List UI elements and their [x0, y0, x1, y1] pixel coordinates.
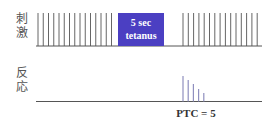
- response-spikes: [183, 76, 204, 102]
- tetanus-label-2: tetanus: [125, 30, 156, 41]
- ptc-label: PTC = 5: [176, 107, 216, 119]
- stimulus-train-pre: [38, 13, 112, 46]
- ptc-diagram: 5 sec tetanus PTC = 5: [0, 0, 275, 122]
- tetanus-label-1: 5 sec: [131, 17, 152, 28]
- stimulus-train-post: [183, 13, 257, 46]
